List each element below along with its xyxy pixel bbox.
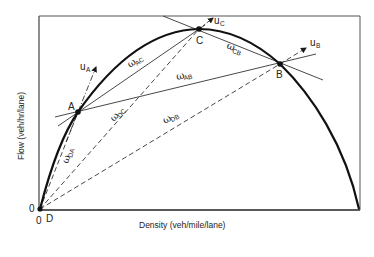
svg-text:DC: DC — [116, 107, 128, 119]
svg-text:AB: AB — [183, 73, 193, 82]
label-w-db: ω DB — [161, 108, 181, 126]
svg-text:u: u — [214, 15, 220, 26]
label-w-cb: ω CB — [225, 40, 244, 57]
svg-text:DA: DA — [66, 147, 76, 158]
point-c — [196, 26, 202, 32]
point-a — [75, 109, 81, 115]
label-w-ab: ω AB — [175, 68, 193, 83]
label-a: A — [68, 101, 75, 112]
svg-text:DB: DB — [169, 113, 180, 124]
label-b: B — [276, 69, 283, 80]
svg-text:CB: CB — [231, 47, 242, 57]
chord-lines — [55, 16, 323, 126]
line-db — [40, 64, 280, 209]
line-ab — [55, 54, 316, 117]
flow-density-curve — [40, 29, 359, 209]
origin-x-label: 0 — [36, 215, 42, 226]
svg-text:u: u — [80, 61, 86, 72]
label-w-da: ω DA — [59, 145, 76, 165]
x-axis-title: Density (veh/mile/lane) — [139, 220, 226, 230]
label-uc: u C — [214, 15, 225, 27]
svg-text:C: C — [220, 20, 225, 27]
label-ua: u A — [80, 61, 91, 73]
line-cb — [163, 16, 323, 80]
point-b — [277, 61, 283, 67]
label-ub: u B — [310, 37, 320, 49]
svg-text:AC: AC — [134, 56, 146, 67]
svg-text:B: B — [316, 42, 320, 49]
svg-text:u: u — [310, 37, 316, 48]
svg-text:A: A — [86, 66, 91, 73]
label-d: D — [46, 213, 53, 224]
flow-density-diagram: A C B D 0 0 u A u C u B ω AC ω AB ω CB ω… — [0, 0, 374, 257]
point-d — [37, 206, 42, 211]
label-w-dc: ω DC — [107, 104, 127, 124]
y-axis-title: Flow (veh/hr/lane) — [16, 92, 26, 160]
origin-y-label: 0 — [29, 203, 35, 214]
label-c: C — [196, 35, 203, 46]
